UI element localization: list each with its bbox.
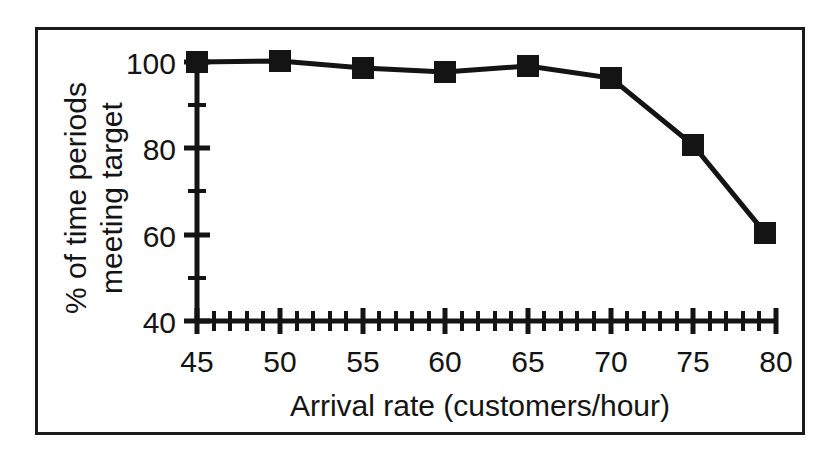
- y-tick-label-60: 60: [143, 220, 176, 253]
- y-tick-label-100: 100: [126, 47, 176, 80]
- x-tick-label-65: 65: [511, 345, 544, 378]
- data-point: [186, 51, 208, 73]
- data-point: [600, 67, 622, 89]
- data-point: [754, 222, 776, 244]
- data-point: [434, 61, 456, 83]
- data-point: [682, 134, 704, 156]
- x-tick-label-55: 55: [346, 345, 379, 378]
- data-point: [352, 57, 374, 79]
- data-point-markers: [186, 50, 776, 244]
- y-tick-label-80: 80: [143, 133, 176, 166]
- x-tick-label-45: 45: [180, 345, 213, 378]
- x-tick-label-50: 50: [263, 345, 296, 378]
- data-point: [269, 50, 291, 72]
- x-tick-label-75: 75: [676, 345, 709, 378]
- data-point: [517, 55, 539, 77]
- x-tick-label-70: 70: [594, 345, 627, 378]
- chart-figure: 100 80 60 40 45 50 55 60 65 70 75 80 Arr…: [0, 0, 839, 468]
- chart-plot-area: 100 80 60 40 45 50 55 60 65 70 75 80 Arr…: [0, 0, 839, 468]
- y-axis-title-line2: meeting target: [95, 101, 128, 293]
- y-tick-label-40: 40: [143, 306, 176, 339]
- x-tick-label-60: 60: [428, 345, 461, 378]
- x-tick-label-80: 80: [759, 345, 792, 378]
- data-series-line: [197, 61, 765, 233]
- x-axis-title: Arrival rate (customers/hour): [290, 389, 670, 422]
- y-axis-title-line1: % of time periods: [59, 82, 92, 314]
